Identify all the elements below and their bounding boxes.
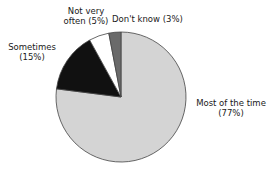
label-text: Not very bbox=[62, 6, 110, 16]
label-percent: (77%) bbox=[188, 108, 274, 118]
pie-svg bbox=[0, 0, 277, 173]
label-text: Sometimes bbox=[4, 42, 60, 52]
label-text: Most of the time bbox=[188, 98, 274, 108]
label-not-very-often: Not very often (5%) bbox=[62, 6, 110, 26]
pie-chart: Most of the time (77%) Sometimes (15%) N… bbox=[0, 0, 277, 173]
label-text: Don't know (3%) bbox=[112, 14, 192, 24]
label-sometimes: Sometimes (15%) bbox=[4, 42, 60, 62]
label-most-of-the-time: Most of the time (77%) bbox=[188, 98, 274, 118]
label-percent: (15%) bbox=[4, 52, 60, 62]
label-dont-know: Don't know (3%) bbox=[112, 14, 192, 24]
label-percent: often (5%) bbox=[62, 16, 110, 26]
